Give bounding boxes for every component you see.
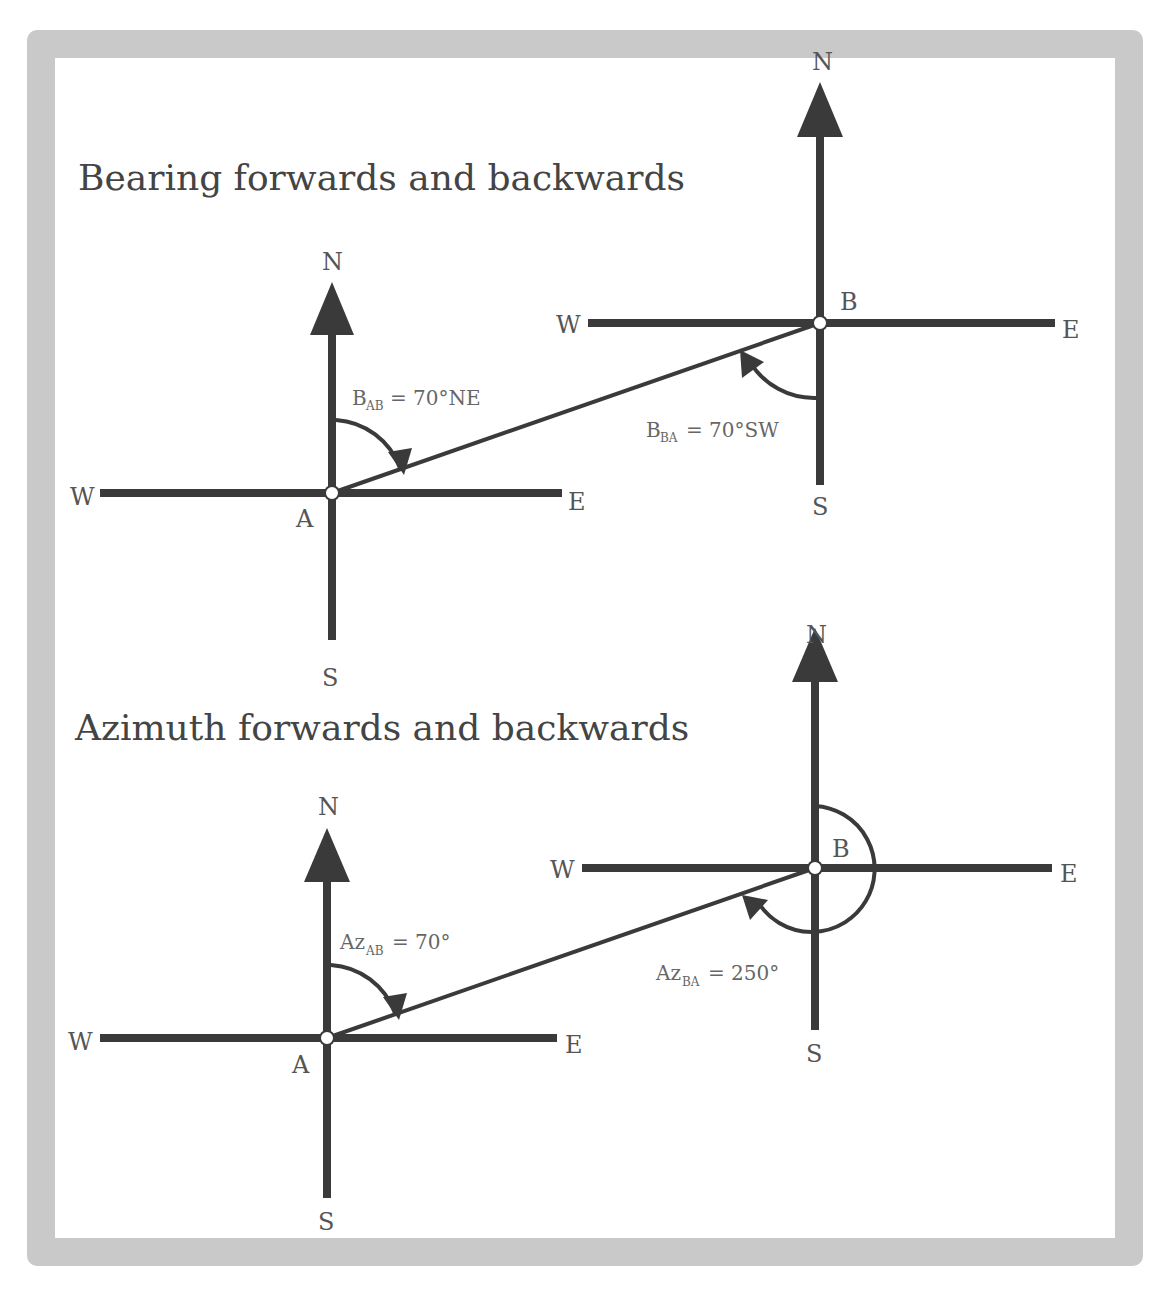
azimuth-point-a [320, 1031, 334, 1045]
bearing-backward-annotation: B BA = 70°SW [646, 418, 779, 445]
bearing-a-station-label: A [295, 505, 314, 533]
azimuth-forward-annotation: Az AB = 70° [339, 930, 451, 958]
bearing-backward-arc [750, 362, 816, 398]
azimuth-forward-symbol: Az [339, 930, 365, 954]
bearing-forward-subscript: AB [365, 399, 384, 413]
bearing-title: Bearing forwards and backwards [78, 157, 685, 198]
bearing-b-station-label: B [840, 288, 858, 316]
azimuth-b-north-label: N [806, 621, 827, 649]
bearing-a-east-label: E [568, 488, 586, 516]
azimuth-a-north-arrow-icon [304, 828, 350, 882]
bearing-b-north-arrow-icon [797, 82, 843, 137]
azimuth-title: Azimuth forwards and backwards [74, 707, 689, 748]
bearing-a-south-label: S [322, 664, 338, 692]
azimuth-station-b: N S E W B [550, 621, 1078, 1068]
bearing-point-b [813, 316, 827, 330]
bearing-a-north-label: N [322, 248, 343, 276]
azimuth-backward-symbol: Az [655, 961, 681, 985]
azimuth-backward-value: = 250° [708, 961, 779, 985]
bearing-point-a [325, 486, 339, 500]
azimuth-forward-arc [331, 965, 395, 1013]
azimuth-a-north-label: N [318, 793, 339, 821]
bearing-station-a: N S E W A [70, 248, 586, 692]
azimuth-a-south-label: S [318, 1208, 334, 1236]
azimuth-b-east-label: E [1060, 860, 1078, 888]
azimuth-b-west-label: W [550, 856, 575, 884]
bearing-b-east-label: E [1062, 316, 1080, 344]
bearing-b-north-label: N [812, 48, 833, 76]
azimuth-forward-value: = 70° [392, 930, 451, 954]
azimuth-backward-subscript: BA [682, 975, 700, 989]
azimuth-b-station-label: B [832, 835, 850, 863]
azimuth-panel: Azimuth forwards and backwards N S E W A… [68, 621, 1078, 1236]
azimuth-backward-annotation: Az BA = 250° [655, 961, 779, 989]
bearing-forward-value: = 70°NE [390, 386, 481, 410]
bearing-b-west-label: W [556, 311, 581, 339]
bearing-b-south-label: S [812, 493, 828, 521]
bearing-backward-value: = 70°SW [686, 418, 779, 442]
diagram-svg: Bearing forwards and backwards N S E W A… [0, 0, 1167, 1301]
bearing-forward-annotation: B AB = 70°NE [352, 386, 481, 413]
azimuth-a-station-label: A [291, 1051, 310, 1079]
azimuth-forward-subscript: AB [365, 944, 384, 958]
diagram-stage: Bearing forwards and backwards N S E W A… [0, 0, 1167, 1301]
azimuth-b-south-label: S [806, 1040, 822, 1068]
azimuth-a-east-label: E [565, 1031, 583, 1059]
azimuth-point-b [808, 861, 822, 875]
bearing-station-b: N S E W B [556, 48, 1080, 521]
bearing-forward-symbol: B [352, 386, 367, 410]
azimuth-station-a: N S E W A [68, 793, 583, 1236]
bearing-a-north-arrow-icon [310, 282, 354, 335]
bearing-forward-arc [336, 420, 400, 468]
bearing-backward-symbol: B [646, 418, 661, 442]
bearing-a-west-label: W [70, 483, 95, 511]
azimuth-a-west-label: W [68, 1028, 93, 1056]
bearing-panel: Bearing forwards and backwards N S E W A… [70, 48, 1080, 692]
bearing-backward-subscript: BA [660, 431, 678, 445]
